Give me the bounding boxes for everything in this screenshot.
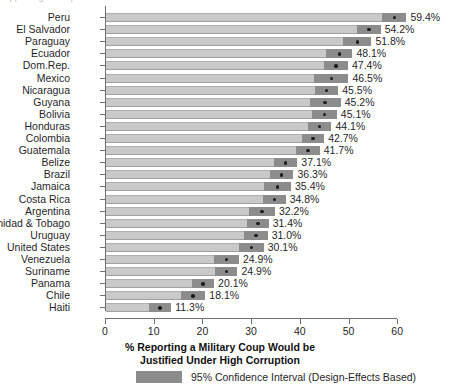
x-axis-tick-label: 10 bbox=[148, 325, 160, 337]
value-label: 35.4% bbox=[295, 180, 325, 192]
y-axis-tick bbox=[100, 90, 105, 91]
bar-segment bbox=[106, 110, 312, 119]
y-axis-tick bbox=[100, 162, 105, 163]
y-axis-tick bbox=[100, 295, 105, 296]
point-estimate-marker bbox=[191, 294, 194, 297]
chart-figure: clipped figure caption Peru59.4%El Salva… bbox=[0, 0, 455, 390]
point-estimate-marker bbox=[338, 52, 341, 55]
value-label: 47.4% bbox=[352, 59, 382, 71]
bar-segment bbox=[106, 207, 249, 216]
bar-segment bbox=[106, 49, 326, 58]
value-label: 36.3% bbox=[297, 168, 327, 180]
bar-segment bbox=[106, 279, 192, 288]
category-label-venezuela: Venezuela bbox=[0, 253, 70, 265]
bar-segment bbox=[106, 86, 315, 95]
category-label-colombia: Colombia bbox=[0, 132, 70, 144]
y-axis-tick bbox=[100, 271, 105, 272]
bar-segment bbox=[106, 243, 239, 252]
category-label-guyana: Guyana bbox=[0, 96, 70, 108]
point-estimate-marker bbox=[330, 77, 333, 80]
bar-segment bbox=[106, 25, 357, 34]
category-label-united-states: United States bbox=[0, 241, 70, 253]
x-axis-tick-label: 60 bbox=[391, 325, 403, 337]
category-label-mexico: Mexico bbox=[0, 72, 70, 84]
x-axis-tick-label: 40 bbox=[294, 325, 306, 337]
bar-segment bbox=[106, 158, 274, 167]
category-label-bolivia: Bolivia bbox=[0, 108, 70, 120]
value-label: 42.7% bbox=[328, 132, 358, 144]
category-label-nicaragua: Nicaragua bbox=[0, 84, 70, 96]
category-label-panama: Panama bbox=[0, 277, 70, 289]
point-estimate-marker bbox=[201, 282, 204, 285]
value-label: 30.1% bbox=[268, 241, 298, 253]
bar-segment bbox=[106, 13, 382, 22]
x-axis-tick bbox=[397, 319, 398, 324]
y-axis-tick bbox=[100, 102, 105, 103]
point-estimate-marker bbox=[284, 161, 287, 164]
plot-area: Peru59.4%El Salvador54.2%Paraguay51.8%Ec… bbox=[0, 0, 455, 330]
bar-segment bbox=[106, 219, 247, 228]
bar-segment bbox=[106, 255, 214, 264]
value-label: 45.2% bbox=[345, 96, 375, 108]
bar-segment bbox=[106, 182, 264, 191]
y-axis-tick bbox=[100, 235, 105, 236]
value-label: 24.9% bbox=[243, 253, 273, 265]
bar-segment bbox=[106, 303, 149, 312]
category-label-argentina: Argentina bbox=[0, 205, 70, 217]
point-estimate-marker bbox=[260, 210, 263, 213]
category-label-jamaica: Jamaica bbox=[0, 180, 70, 192]
x-axis-title: % Reporting a Military Coup Would be Jus… bbox=[0, 341, 440, 367]
point-estimate-marker bbox=[256, 222, 259, 225]
value-label: 31.0% bbox=[272, 229, 302, 241]
bar-segment bbox=[106, 231, 244, 240]
x-axis-tick bbox=[154, 319, 155, 324]
category-label-honduras: Honduras bbox=[0, 120, 70, 132]
bar-segment bbox=[106, 61, 324, 70]
category-label-costa-rica: Costa Rica bbox=[0, 193, 70, 205]
y-axis-tick bbox=[100, 17, 105, 18]
bar-segment bbox=[106, 146, 296, 155]
x-axis-tick bbox=[300, 319, 301, 324]
y-axis-tick bbox=[100, 307, 105, 308]
point-estimate-marker bbox=[323, 101, 326, 104]
value-label: 51.8% bbox=[375, 35, 405, 47]
legend-swatch-confidence-interval bbox=[136, 371, 182, 383]
value-label: 24.9% bbox=[241, 265, 271, 277]
y-axis-tick bbox=[100, 259, 105, 260]
chart-legend: 95% Confidence Interval (Design-Effects … bbox=[136, 371, 416, 383]
y-axis-tick bbox=[100, 126, 105, 127]
bar-segment bbox=[106, 170, 270, 179]
y-axis-tick bbox=[100, 150, 105, 151]
point-estimate-marker bbox=[276, 185, 279, 188]
category-label-peru: Peru bbox=[0, 11, 70, 23]
y-axis-tick bbox=[100, 53, 105, 54]
category-label-brazil: Brazil bbox=[0, 168, 70, 180]
value-label: 59.4% bbox=[410, 11, 440, 23]
y-axis-tick bbox=[100, 199, 105, 200]
value-label: 34.8% bbox=[290, 193, 320, 205]
x-axis-tick bbox=[202, 319, 203, 324]
y-axis-tick bbox=[100, 29, 105, 30]
bar-segment bbox=[106, 134, 302, 143]
y-axis-tick bbox=[100, 41, 105, 42]
value-label: 31.4% bbox=[273, 217, 303, 229]
x-axis-tick bbox=[105, 319, 106, 324]
x-axis-title-line2: Justified Under High Corruption bbox=[0, 354, 440, 367]
category-label-belize: Belize bbox=[0, 156, 70, 168]
bar-segment bbox=[106, 37, 343, 46]
y-axis-tick bbox=[100, 247, 105, 248]
category-label-paraguay: Paraguay bbox=[0, 35, 70, 47]
value-label: 20.1% bbox=[218, 277, 248, 289]
bar-segment bbox=[106, 74, 314, 83]
value-label: 41.7% bbox=[324, 144, 354, 156]
point-estimate-marker bbox=[334, 64, 337, 67]
y-axis-tick bbox=[100, 283, 105, 284]
y-axis-tick bbox=[100, 174, 105, 175]
value-label: 44.1% bbox=[335, 120, 365, 132]
y-axis-tick bbox=[100, 78, 105, 79]
y-axis-tick bbox=[100, 186, 105, 187]
x-axis-tick-label: 0 bbox=[102, 325, 108, 337]
value-label: 18.1% bbox=[209, 289, 239, 301]
bar-segment bbox=[106, 122, 308, 131]
category-label-chile: Chile bbox=[0, 289, 70, 301]
